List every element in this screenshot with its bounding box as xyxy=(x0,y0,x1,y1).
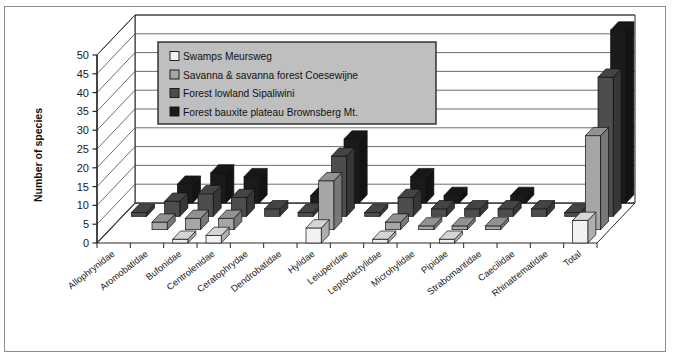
bar-front-face xyxy=(306,228,321,243)
y-axis-tick-label: 5 xyxy=(83,218,89,230)
bar-side-face xyxy=(626,22,634,203)
legend: Swamps MeurswegSavanna & savanna forest … xyxy=(158,42,436,124)
x-axis-label: Hylidae xyxy=(286,249,317,276)
bar-front-face xyxy=(398,198,413,217)
bar-chart-3d: 05101520253035404550Number of speciesAll… xyxy=(0,0,674,361)
x-axis-label: Pipidae xyxy=(419,249,450,276)
bar-front-face xyxy=(173,239,188,243)
bar-front-face xyxy=(365,213,380,217)
bar-front-face xyxy=(573,220,588,243)
bar-front-face xyxy=(439,239,454,243)
bar-front-face xyxy=(531,209,546,217)
y-axis-tick-label: 25 xyxy=(77,143,89,155)
bar-side-face xyxy=(347,148,355,216)
y-axis-title: Number of species xyxy=(32,108,44,202)
bar-front-face xyxy=(431,209,446,217)
y-axis-tick-label: 15 xyxy=(77,181,89,193)
y-axis-tick-label: 10 xyxy=(77,199,89,211)
bar-side-face xyxy=(613,69,621,216)
bar-front-face xyxy=(298,213,313,217)
bar-front-face xyxy=(452,226,467,230)
bar-front-face xyxy=(498,209,513,217)
bar-side-face xyxy=(334,173,342,230)
legend-label: Savanna & savanna forest Coesewijne xyxy=(183,70,358,81)
bar-front-face xyxy=(206,235,221,243)
bar-side-face xyxy=(359,131,367,203)
y-axis-tick-label: 45 xyxy=(77,68,89,80)
legend-label: Forest lowland Sipaliwini xyxy=(183,88,295,99)
legend-swatch xyxy=(170,52,179,61)
bar-front-face xyxy=(265,209,280,217)
legend-swatch xyxy=(170,70,179,79)
x-axis-label: Total xyxy=(562,249,584,269)
bar xyxy=(573,212,596,243)
bar-side-face xyxy=(601,127,609,229)
chart-canvas: 05101520253035404550Number of speciesAll… xyxy=(0,0,674,361)
bar-front-face xyxy=(485,226,500,230)
legend-label: Swamps Meursweg xyxy=(183,51,272,62)
bar-front-face xyxy=(385,222,400,230)
bar-front-face xyxy=(131,213,146,217)
y-axis-tick-label: 35 xyxy=(77,105,89,117)
legend-swatch xyxy=(170,107,179,116)
y-axis-tick-label: 0 xyxy=(83,237,89,249)
legend-label: Forest bauxite plateau Brownsberg Mt. xyxy=(183,107,358,118)
x-axis-label: Rhinatrematidae xyxy=(490,249,550,299)
bar-front-face xyxy=(419,226,434,230)
y-axis-tick-label: 50 xyxy=(77,49,89,61)
legend-swatch xyxy=(170,89,179,98)
y-axis-tick-label: 20 xyxy=(77,162,89,174)
bar-front-face xyxy=(465,209,480,217)
bar-front-face xyxy=(373,239,388,243)
bar-front-face xyxy=(152,222,167,230)
bar-front-face xyxy=(185,218,200,229)
x-axis-labels: AllophrynidaeAromobatidaeBufonidaeCentro… xyxy=(66,249,583,299)
y-axis-tick-label: 30 xyxy=(77,124,89,136)
y-axis-tick-label: 40 xyxy=(77,87,89,99)
